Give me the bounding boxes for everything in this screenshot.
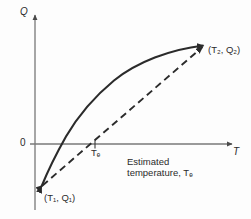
estimated-temperature-note: Estimated temperature, Tₑ — [127, 156, 193, 178]
origin-label: 0 — [20, 137, 26, 149]
estimated-temperature-line-2: temperature, Tₑ — [127, 167, 193, 178]
point-1-label: (T₁, Q₁) — [44, 192, 75, 203]
figure-canvas — [0, 0, 251, 219]
x-axis-label: T — [233, 146, 239, 158]
y-axis-label: Q — [20, 6, 28, 18]
estimated-temperature-line-1: Estimated — [127, 156, 193, 167]
te-tick-label: Tₑ — [91, 147, 100, 158]
thermocouple-qt-figure: Q T 0 (T₂, Q₂) (T₁, Q₁) Tₑ Estimated tem… — [0, 0, 251, 219]
point-2-label: (T₂, Q₂) — [208, 44, 240, 55]
